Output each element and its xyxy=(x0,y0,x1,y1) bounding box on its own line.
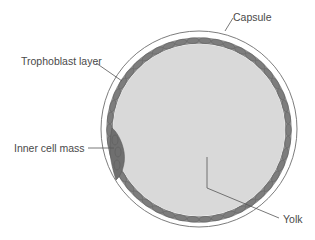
inner-cell-mass-label: Inner cell mass xyxy=(14,142,85,154)
capsule-label: Capsule xyxy=(233,11,272,23)
blastocyst-illustration xyxy=(0,0,315,240)
yolk-fill xyxy=(113,44,285,216)
capsule-leader-line xyxy=(225,18,233,31)
yolk-label: Yolk xyxy=(283,213,302,225)
blastocyst-diagram: Capsule Trophoblast layer Inner cell mas… xyxy=(0,0,315,240)
trophoblast-layer-label: Trophoblast layer xyxy=(21,55,102,67)
